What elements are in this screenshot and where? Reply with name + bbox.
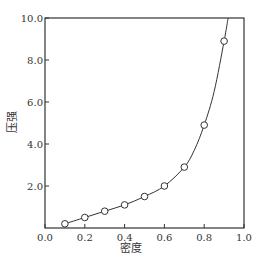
y-tick-label: 2.0 bbox=[27, 181, 43, 192]
x-tick-label: 0.6 bbox=[156, 232, 172, 243]
x-axis-label: 密度 bbox=[120, 241, 142, 255]
data-point-marker bbox=[141, 193, 148, 200]
data-point-marker bbox=[62, 221, 69, 228]
data-point-marker bbox=[201, 122, 208, 129]
data-point-marker bbox=[101, 208, 108, 215]
data-point-marker bbox=[221, 38, 228, 45]
data-point-marker bbox=[161, 183, 168, 190]
fit-curve bbox=[65, 18, 228, 224]
x-tick-label: 1.0 bbox=[236, 232, 252, 243]
y-tick-label: 10.0 bbox=[21, 13, 43, 24]
y-tick-label: 4.0 bbox=[27, 139, 43, 150]
data-point-marker bbox=[181, 164, 188, 171]
y-axis-label: 压强 bbox=[6, 111, 19, 133]
chart: 0.00.20.40.60.81.0 2.04.06.08.010.0 密度 压… bbox=[0, 0, 261, 266]
plot-area bbox=[45, 18, 244, 228]
y-tick-label: 8.0 bbox=[27, 55, 43, 66]
x-tick-label: 0.2 bbox=[77, 232, 93, 243]
x-axis-ticks: 0.00.20.40.60.81.0 bbox=[37, 224, 252, 243]
y-tick-label: 6.0 bbox=[27, 97, 43, 108]
x-tick-label: 0.8 bbox=[196, 232, 212, 243]
data-point-marker bbox=[121, 202, 128, 209]
x-tick-label: 0.0 bbox=[37, 232, 53, 243]
data-point-marker bbox=[82, 214, 89, 221]
